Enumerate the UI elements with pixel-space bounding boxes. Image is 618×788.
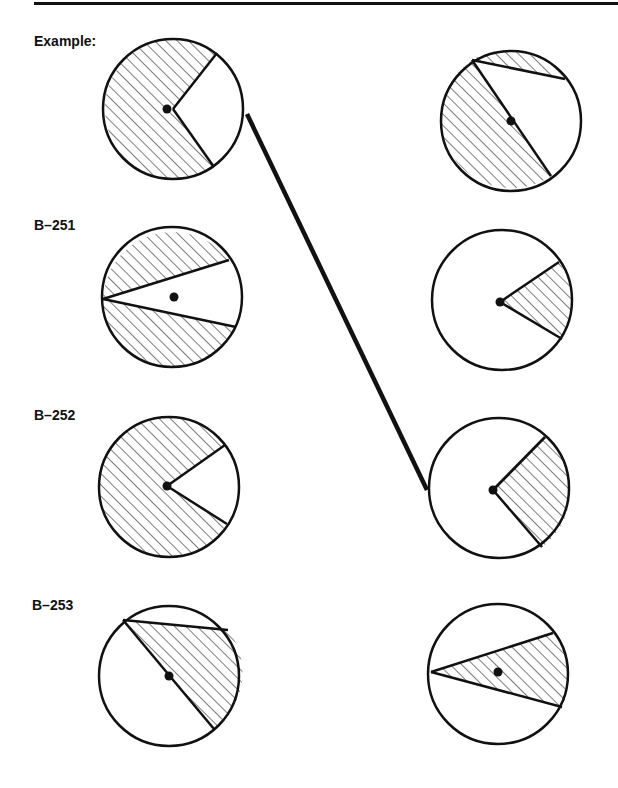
b252-right-circle[interactable] — [429, 418, 570, 558]
example-left-circle[interactable] — [103, 39, 243, 179]
center-dot-icon — [163, 482, 172, 491]
center-dot-icon — [507, 117, 516, 126]
matching-line — [247, 114, 427, 490]
b251-left-circle[interactable] — [102, 227, 242, 367]
diagram-canvas — [0, 0, 618, 788]
center-dot-icon — [489, 486, 498, 495]
center-dot-icon — [496, 298, 505, 307]
center-dot-icon — [163, 105, 172, 114]
b252-left-circle[interactable] — [98, 416, 239, 557]
center-dot-icon — [165, 672, 174, 681]
b253-right-circle[interactable] — [428, 604, 569, 744]
center-dot-icon — [494, 668, 503, 677]
center-dot-icon — [170, 293, 179, 302]
b251-right-circle[interactable] — [432, 230, 572, 370]
b253-left-circle[interactable] — [99, 606, 242, 746]
example-right-circle[interactable] — [441, 50, 581, 191]
